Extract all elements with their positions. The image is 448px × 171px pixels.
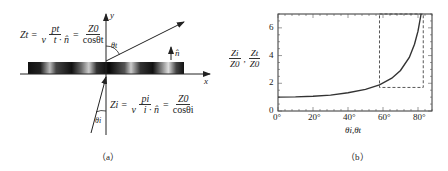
x-axis-label: x	[204, 76, 208, 86]
theta-i-arc	[96, 111, 106, 112]
x-axis-label-b: θi,θt	[345, 125, 361, 135]
x-tick-label: 20°	[308, 112, 321, 122]
y-tick-label: 4	[269, 50, 274, 60]
y-tick-label: 6	[269, 22, 274, 32]
theta-i-label: θi	[95, 116, 101, 125]
theta-t-label: θt	[111, 41, 117, 50]
data-curve	[278, 14, 421, 97]
equation-transmitted: Zt = pt v⃗t · n̂ = Z0 cosθt	[20, 24, 106, 45]
eq-top-lhs: Zt =	[20, 29, 38, 40]
y-tick-label: 2	[269, 77, 274, 87]
caption-b: （b）	[346, 150, 369, 163]
panel-b-chart	[278, 14, 432, 111]
dashed-highlight-box	[380, 14, 424, 87]
normal-label: n̂	[175, 48, 180, 58]
eq-bottom-frac1: pi v⃗i · n̂	[130, 94, 162, 115]
equation-incident: Zi = pi v⃗i · n̂ = Z0 cosθi	[110, 94, 196, 115]
x-tick-label: 80°	[413, 112, 426, 122]
eq-top-frac1: pt v⃗t · n̂	[40, 24, 72, 45]
y-axis-label-b: Zi Z0 , Zt Z0	[228, 48, 261, 69]
x-tick-label: 40°	[343, 112, 356, 122]
eq-top-frac2: Z0 cosθt	[81, 24, 106, 45]
caption-a: （a）	[97, 150, 119, 163]
transmitted-ray-arrow	[106, 22, 184, 61]
eq-bottom-lhs: Zi =	[110, 99, 128, 110]
x-tick-label: 0°	[273, 112, 281, 122]
x-tick-label: 60°	[378, 112, 391, 122]
eq-bottom-frac2: Z0 cosθi	[171, 94, 196, 115]
y-axis-label: y	[110, 10, 114, 20]
